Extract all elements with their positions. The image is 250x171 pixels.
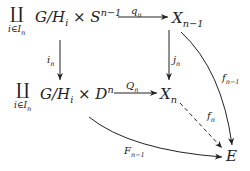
node-X-n-minus-1: Xn−1 — [172, 9, 203, 29]
coproduct-index: i∈In — [8, 24, 25, 37]
label-F-prev: Fn−1 — [124, 145, 145, 159]
label-Q: Qn — [126, 80, 138, 94]
coproduct-index: i∈In — [14, 100, 31, 113]
coproduct-symbol: ∐ — [16, 79, 30, 99]
node-top-left-expr: G/Hi × Sn−1 — [35, 7, 121, 28]
label-i: in — [47, 54, 54, 68]
node-X-n: Xn — [160, 85, 177, 105]
label-f-prev: fn−1 — [222, 72, 239, 86]
node-mid-left-expr: G/Hi × Dn — [40, 84, 114, 105]
arrow-F-prev — [89, 117, 222, 157]
label-q: qn — [131, 5, 142, 19]
arrow-f-prev — [181, 32, 232, 145]
label-j: jn — [173, 54, 180, 68]
coproduct-symbol: ∐ — [10, 3, 24, 23]
node-E: E — [226, 147, 237, 165]
arrow-f — [180, 103, 222, 148]
label-f: fn — [207, 110, 215, 124]
